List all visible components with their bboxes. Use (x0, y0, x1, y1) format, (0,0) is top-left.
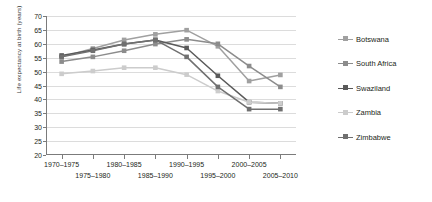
y-axis-tick-label: 70 (16, 13, 42, 20)
line-chart: Life expectancy at birth (years) 7065605… (0, 0, 432, 202)
data-point-marker (216, 85, 221, 90)
y-axis-tick-mark (43, 155, 46, 156)
x-axis-tick-label: 2005–2010 (263, 172, 298, 179)
data-point-marker (91, 48, 96, 53)
x-axis-tick-mark (124, 155, 125, 159)
data-point-marker (91, 69, 96, 74)
x-axis-tick-mark (187, 155, 188, 159)
y-axis-tick-mark (43, 141, 46, 142)
y-axis-tick-label: 40 (16, 96, 42, 103)
x-axis-tick-label: 1995–2000 (200, 172, 235, 179)
legend-item-label: Zimbabwe (356, 133, 391, 142)
data-point-marker (216, 73, 221, 78)
y-axis-tick-mark (43, 86, 46, 87)
data-point-marker (59, 72, 64, 77)
legend-item-zambia[interactable]: Zambia (338, 107, 381, 119)
data-point-marker (59, 55, 64, 60)
y-axis-tick-mark (43, 99, 46, 100)
data-point-marker (278, 85, 283, 90)
data-point-marker (247, 79, 252, 84)
data-point-marker (184, 72, 189, 77)
x-axis-tick-label: 2000–2005 (232, 161, 267, 168)
y-axis-tick-label: 55 (16, 54, 42, 61)
data-point-marker (184, 28, 189, 33)
legend-item-botswana[interactable]: Botswana (338, 33, 389, 45)
data-point-marker (184, 55, 189, 60)
y-axis-tick-label: 50 (16, 68, 42, 75)
x-axis-tick-mark (218, 155, 219, 159)
data-point-marker (59, 59, 64, 64)
data-point-marker (184, 46, 189, 51)
y-axis-tick-mark (43, 72, 46, 73)
data-point-marker (153, 42, 158, 47)
y-axis-tick-mark (43, 113, 46, 114)
legend-item-swaziland[interactable]: Swaziland (338, 82, 390, 94)
x-axis-tick-mark (155, 155, 156, 159)
legend-swatch-icon (338, 84, 353, 93)
legend-item-south-africa[interactable]: South Africa (338, 58, 396, 70)
legend-item-label: Botswana (356, 35, 389, 44)
x-axis-tick-label: 1990–1995 (169, 161, 204, 168)
chart-legend: BotswanaSouth AfricaSwazilandZambiaZimba… (338, 33, 430, 149)
x-axis-tick-label: 1980–1985 (107, 161, 142, 168)
legend-item-zimbabwe[interactable]: Zimbabwe (338, 131, 391, 143)
y-axis-tick-label: 35 (16, 110, 42, 117)
y-axis-tick-label: 25 (16, 138, 42, 145)
y-axis-tick-mark (43, 58, 46, 59)
x-axis-tick-mark (62, 155, 63, 159)
legend-swatch-icon (338, 133, 353, 142)
series-layer (46, 16, 296, 155)
data-point-marker (122, 48, 127, 53)
data-point-marker (278, 73, 283, 78)
y-axis-tick-label: 20 (16, 152, 42, 159)
y-axis-tick-label: 60 (16, 40, 42, 47)
data-point-marker (153, 65, 158, 70)
y-axis-tick-label: 30 (16, 124, 42, 131)
legend-swatch-icon (338, 59, 353, 68)
legend-item-label: Zambia (356, 108, 381, 117)
data-point-marker (153, 38, 158, 43)
y-axis-tick-mark (43, 30, 46, 31)
data-point-marker (278, 101, 283, 106)
data-point-marker (184, 37, 189, 42)
y-axis-tick-mark (43, 127, 46, 128)
data-point-marker (247, 100, 252, 105)
data-point-marker (122, 38, 127, 43)
x-axis-tick-mark (249, 155, 250, 159)
y-axis-tick-mark (43, 44, 46, 45)
series-zambia (59, 65, 282, 105)
y-axis-tick-label: 65 (16, 26, 42, 33)
x-axis-tick-mark (93, 155, 94, 159)
data-point-marker (247, 64, 252, 69)
legend-swatch-icon (338, 35, 353, 44)
legend-item-label: South Africa (356, 59, 396, 68)
x-axis-tick-label: 1985–1990 (138, 172, 173, 179)
x-axis-tick-mark (280, 155, 281, 159)
y-axis-tick-labels: 7065605550454035302520 (12, 16, 42, 155)
data-point-marker (122, 65, 127, 70)
x-axis-tick-label: 1970–1975 (44, 161, 79, 168)
x-axis-tick-label: 1975–1980 (75, 172, 110, 179)
data-point-marker (216, 42, 221, 47)
data-point-marker (91, 55, 96, 60)
data-point-marker (216, 89, 221, 94)
legend-item-label: Swaziland (356, 84, 390, 93)
data-point-marker (153, 32, 158, 37)
y-axis-tick-label: 45 (16, 82, 42, 89)
data-point-marker (278, 107, 283, 112)
legend-swatch-icon (338, 108, 353, 117)
data-point-marker (122, 42, 127, 47)
y-axis-tick-mark (43, 16, 46, 17)
data-point-marker (247, 107, 252, 112)
